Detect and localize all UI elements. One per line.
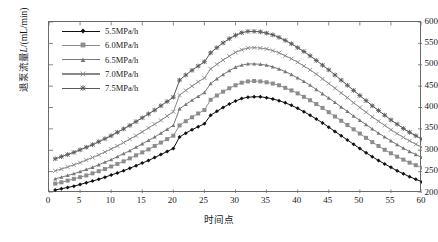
legend-marker-square-icon <box>78 40 88 50</box>
y-axis-label: 退泵流量L/(mL/min) <box>16 0 30 125</box>
x-tick-55: 55 <box>375 196 405 205</box>
x-tick-35: 35 <box>251 196 281 205</box>
legend-item-6.5MPa/h: 6.5MPa/h <box>62 54 170 66</box>
legend-item-5.5MPa/h: 5.5MPa/h <box>62 25 170 37</box>
legend-swatch-7.0MPa/h <box>62 69 100 79</box>
x-tick-10: 10 <box>95 196 125 205</box>
legend-label: 5.5MPa/h <box>100 26 138 36</box>
x-tick-30: 30 <box>220 196 250 205</box>
legend-swatch-7.5MPa/h <box>62 83 100 93</box>
x-tick-60: 60 <box>406 196 436 205</box>
legend-label: 6.5MPa/h <box>100 55 138 65</box>
legend-marker-diamond-icon <box>78 26 88 36</box>
y-axis-label-units: /(mL/min) <box>19 8 29 48</box>
y-axis-label-prefix: 退泵流量 <box>19 52 29 92</box>
chart-figure: 退泵流量L/(mL/min) 时间点 200250300350400450500… <box>0 0 438 242</box>
legend-marker-triangle-icon <box>78 55 88 65</box>
x-axis-label: 时间点 <box>0 212 438 226</box>
x-tick-50: 50 <box>344 196 374 205</box>
legend-marker-x-icon <box>78 69 88 79</box>
legend-marker-star-icon <box>78 83 88 93</box>
legend-item-7.5MPa/h: 7.5MPa/h <box>62 82 170 94</box>
legend: 5.5MPa/h6.0MPa/h6.5MPa/h7.0MPa/h7.5MPa/h <box>62 25 170 94</box>
x-tick-25: 25 <box>188 196 218 205</box>
legend-swatch-6.0MPa/h <box>62 40 100 50</box>
legend-swatch-5.5MPa/h <box>62 26 100 36</box>
legend-label: 6.0MPa/h <box>100 40 138 50</box>
legend-label: 7.5MPa/h <box>100 83 138 93</box>
x-tick-40: 40 <box>282 196 312 205</box>
x-tick-20: 20 <box>157 196 187 205</box>
y-axis-label-symbol: L <box>19 47 29 52</box>
x-tick-5: 5 <box>64 196 94 205</box>
x-tick-0: 0 <box>33 196 63 205</box>
legend-item-7.0MPa/h: 7.0MPa/h <box>62 68 170 80</box>
series-6.0MPa/h <box>53 79 422 186</box>
legend-label: 7.0MPa/h <box>100 69 138 79</box>
legend-item-6.0MPa/h: 6.0MPa/h <box>62 39 170 51</box>
x-tick-15: 15 <box>126 196 156 205</box>
series-5.5MPa/h <box>53 95 422 192</box>
x-tick-45: 45 <box>313 196 343 205</box>
legend-swatch-6.5MPa/h <box>62 55 100 65</box>
